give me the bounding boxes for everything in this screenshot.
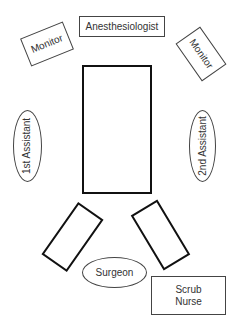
second-assistant-ellipse: 2nd Assistant: [189, 110, 216, 182]
first-assistant-ellipse: 1st Assistant: [13, 110, 42, 182]
anesthesiologist-box: Anesthesiologist: [79, 16, 165, 37]
monitor-left: Monitor: [20, 21, 74, 66]
scrub-nurse-box: Scrub Nurse: [151, 276, 226, 315]
surgeon-ellipse: Surgeon: [82, 257, 147, 288]
anesthesiologist-label: Anesthesiologist: [86, 21, 159, 33]
monitor-right: Monitor: [176, 27, 227, 82]
monitor-right-label: Monitor: [187, 37, 216, 71]
operating-table: [82, 65, 152, 194]
arm-board-right: [131, 200, 191, 271]
scrub-nurse-label-line1: Scrub: [175, 284, 201, 296]
monitor-left-label: Monitor: [29, 32, 64, 56]
second-assistant-label: 2nd Assistant: [197, 116, 209, 175]
first-assistant-label: 1st Assistant: [22, 118, 34, 174]
scrub-nurse-label-line2: Nurse: [175, 296, 202, 308]
surgeon-label: Surgeon: [96, 267, 134, 279]
